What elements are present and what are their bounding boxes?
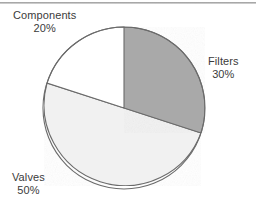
pie-label-filters-name: Filters xyxy=(208,55,239,68)
pie-label-filters-value: 30% xyxy=(208,68,239,81)
pie-label-filters: Filters 30% xyxy=(208,55,239,80)
pie-label-valves-name: Valves xyxy=(12,171,45,184)
pie-label-components: Components 20% xyxy=(13,9,76,34)
pie-label-valves-value: 50% xyxy=(12,184,45,197)
pie-chart-figure: Components 20% Filters 30% Valves 50% xyxy=(0,0,256,211)
pie-label-components-value: 20% xyxy=(13,22,76,35)
pie-label-components-name: Components xyxy=(13,9,76,22)
pie-label-valves: Valves 50% xyxy=(12,171,45,196)
